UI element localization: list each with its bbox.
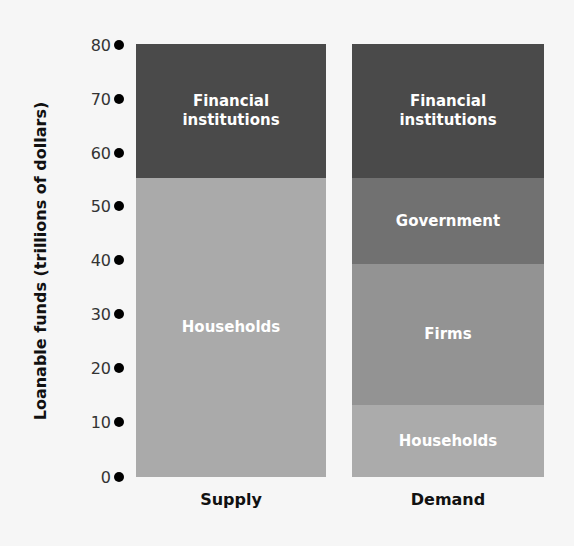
demand-financial-institutions-segment: Financialinstitutions: [352, 44, 544, 178]
segment-label: Financial: [399, 92, 496, 111]
tick-dot-icon: [114, 40, 124, 50]
segment-label: Financial: [182, 92, 279, 111]
segment-label: institutions: [399, 111, 496, 130]
supply-bar: Financialinstitutions Households: [136, 44, 326, 477]
tick-dot-icon: [114, 148, 124, 158]
demand-government-segment: Government: [352, 178, 544, 264]
supply-financial-institutions-segment: Financialinstitutions: [136, 44, 326, 178]
supply-households-segment: Households: [136, 178, 326, 477]
y-axis-label: Loanable funds (trillions of dollars): [31, 102, 50, 421]
segment-label: Households: [399, 432, 497, 451]
tick-dot-icon: [114, 201, 124, 211]
y-tick-label: 50: [91, 197, 111, 216]
segment-label: Government: [396, 212, 500, 231]
tick-dot-icon: [114, 309, 124, 319]
x-category-demand: Demand: [352, 490, 544, 509]
y-tick-label: 0: [101, 468, 111, 487]
y-tick: 20: [74, 358, 124, 378]
segment-label: Households: [182, 318, 280, 337]
demand-households-segment: Households: [352, 405, 544, 477]
y-tick-label: 80: [91, 36, 111, 55]
segment-label: institutions: [182, 111, 279, 130]
y-tick: 40: [74, 250, 124, 270]
y-tick-label: 70: [91, 90, 111, 109]
y-tick: 80: [74, 35, 124, 55]
y-tick: 10: [74, 412, 124, 432]
y-tick-label: 40: [91, 251, 111, 270]
y-tick-label: 30: [91, 305, 111, 324]
demand-bar: Financialinstitutions Government Firms H…: [352, 44, 544, 477]
tick-dot-icon: [114, 417, 124, 427]
loanable-funds-chart: Loanable funds (trillions of dollars) 80…: [0, 0, 574, 546]
tick-dot-icon: [114, 255, 124, 265]
segment-label: Firms: [424, 325, 471, 344]
y-tick: 50: [74, 196, 124, 216]
tick-dot-icon: [114, 363, 124, 373]
tick-dot-icon: [114, 472, 124, 482]
x-category-supply: Supply: [136, 490, 326, 509]
y-tick: 70: [74, 89, 124, 109]
demand-firms-segment: Firms: [352, 264, 544, 405]
tick-dot-icon: [114, 94, 124, 104]
y-tick-label: 20: [91, 359, 111, 378]
y-tick: 0: [74, 467, 124, 487]
y-tick-label: 60: [91, 144, 111, 163]
y-tick-label: 10: [91, 413, 111, 432]
y-tick: 30: [74, 304, 124, 324]
y-tick: 60: [74, 143, 124, 163]
